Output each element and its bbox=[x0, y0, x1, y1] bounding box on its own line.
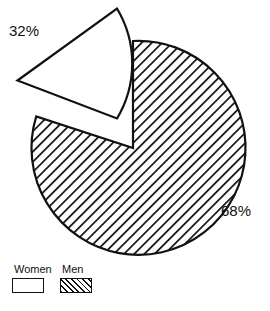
legend-label-men: Men bbox=[62, 264, 92, 275]
legend-swatch-men bbox=[60, 278, 92, 293]
legend-item-women: Women bbox=[12, 264, 52, 293]
chart-legend: Women Men bbox=[12, 264, 142, 304]
pie-chart: 32% 68% Women Men bbox=[0, 0, 270, 311]
legend-swatch-women bbox=[12, 278, 44, 293]
slice-label-men: 68% bbox=[221, 203, 251, 218]
slice-label-women: 32% bbox=[9, 23, 39, 38]
legend-item-men: Men bbox=[60, 264, 92, 293]
legend-label-women: Women bbox=[14, 264, 52, 275]
